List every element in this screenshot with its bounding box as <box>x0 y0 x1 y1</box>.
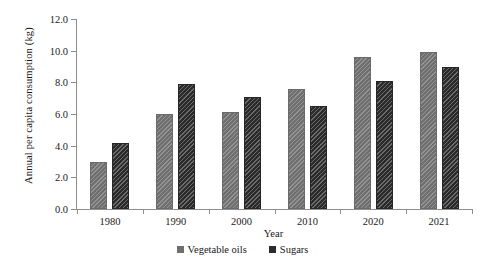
x-axis-tick-label: 2020 <box>363 216 384 227</box>
x-axis-tick-label: 1980 <box>99 216 120 227</box>
x-axis-tick-mark <box>143 209 144 214</box>
bar-sugars <box>310 106 327 209</box>
legend-swatch-icon <box>269 246 276 253</box>
plot-area: 0.02.04.06.08.010.012.0 1980199020002010… <box>76 19 472 210</box>
y-axis-tick-label: 4.0 <box>55 140 68 151</box>
bar-vegetable-oils <box>354 57 371 209</box>
x-axis-tick-mark <box>472 209 473 214</box>
y-axis-tick-label: 2.0 <box>55 172 68 183</box>
x-axis-tick-label: 1990 <box>165 216 186 227</box>
bar-vegetable-oils <box>420 52 437 209</box>
y-axis-tick-label: 6.0 <box>55 109 68 120</box>
legend-label: Vegetable oils <box>188 244 247 255</box>
x-axis-tick-mark <box>340 209 341 214</box>
y-axis-tick-label: 12.0 <box>50 14 68 25</box>
legend-label: Sugars <box>280 244 309 255</box>
bar-sugars <box>244 97 261 209</box>
x-axis-tick-mark <box>77 209 78 214</box>
bar-chart: Annual per capita consumption (kg) 0.02.… <box>0 0 485 268</box>
legend-swatch-icon <box>177 246 184 253</box>
x-axis-tick-mark <box>209 209 210 214</box>
x-axis-tick-label: 2000 <box>231 216 252 227</box>
bar-vegetable-oils <box>90 162 107 210</box>
bar-group <box>340 19 406 209</box>
bar-group <box>406 19 472 209</box>
bar-sugars <box>442 67 459 210</box>
x-axis-tick-mark <box>275 209 276 214</box>
x-axis-title: Year <box>76 228 471 239</box>
y-axis-tick-label: 10.0 <box>50 45 68 56</box>
x-axis-tick-label: 2010 <box>297 216 318 227</box>
bar-vegetable-oils <box>288 89 305 209</box>
bar-group <box>275 19 341 209</box>
x-axis-tick-mark <box>406 209 407 214</box>
y-axis-title: Annual per capita consumption (kg) <box>23 6 34 206</box>
legend-item-vegetable-oils[interactable]: Vegetable oils <box>177 244 247 255</box>
x-axis-tick-label: 2021 <box>429 216 450 227</box>
bars-layer <box>77 19 472 209</box>
bar-sugars <box>178 84 195 209</box>
bar-vegetable-oils <box>222 112 239 209</box>
y-axis-tick-label: 0.0 <box>55 204 68 215</box>
y-axis-tick-label: 8.0 <box>55 77 68 88</box>
legend-item-sugars[interactable]: Sugars <box>269 244 309 255</box>
bar-group <box>209 19 275 209</box>
chart-legend: Vegetable oilsSugars <box>0 244 485 255</box>
bar-vegetable-oils <box>156 114 173 209</box>
bar-sugars <box>376 81 393 209</box>
bar-group <box>143 19 209 209</box>
bar-sugars <box>112 143 129 210</box>
bar-group <box>77 19 143 209</box>
